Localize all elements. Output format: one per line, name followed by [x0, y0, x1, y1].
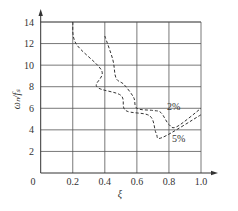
- y-tick-label: 12: [24, 38, 34, 49]
- y-axis-label: ωₙ/fₛ: [11, 89, 22, 110]
- annotation-label: 5%: [172, 133, 185, 144]
- y-tick-label: 2: [29, 146, 34, 157]
- annotation-label: 2%: [167, 101, 180, 112]
- x-tick-label: 0.4: [99, 176, 112, 187]
- y-tick-label: 14: [24, 17, 34, 28]
- y-axis-arrow-icon: [39, 9, 43, 16]
- x-axis-arrow-icon: [211, 171, 218, 175]
- x-tick-label: 1.0: [195, 176, 208, 187]
- origin-label: 0: [31, 176, 36, 187]
- curve-2pct: [105, 36, 201, 128]
- x-axis-label: ξ: [118, 188, 123, 200]
- y-tick-label: 8: [29, 81, 34, 92]
- x-tick-label: 0.6: [131, 176, 144, 187]
- y-tick-labels: 2468101214: [24, 17, 34, 157]
- chart: 2468101214 0.20.40.60.81.0 0 ξ ωₙ/fₛ 2%5…: [0, 0, 238, 211]
- y-tick-label: 6: [29, 103, 34, 114]
- grid: [41, 22, 201, 173]
- axes: [39, 9, 219, 175]
- x-tick-labels: 0.20.40.60.81.0: [67, 176, 208, 187]
- x-tick-label: 0.8: [163, 176, 176, 187]
- y-tick-label: 4: [29, 124, 34, 135]
- x-tick-label: 0.2: [67, 176, 80, 187]
- y-tick-label: 10: [24, 60, 34, 71]
